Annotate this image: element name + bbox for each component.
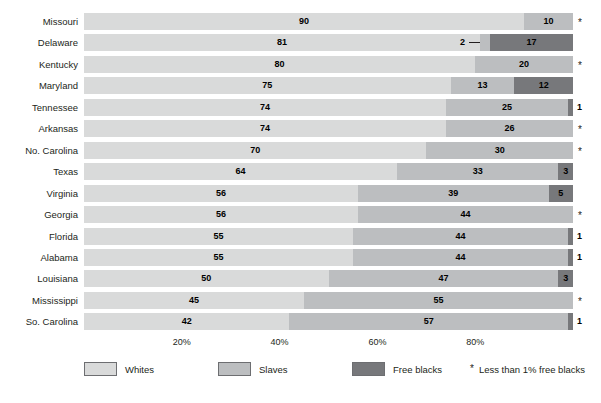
legend-swatch-slaves <box>218 362 251 376</box>
value-label-slaves: 20 <box>475 56 573 73</box>
row-label-delaware: Delaware <box>0 34 78 51</box>
value-label-free-blacks: 1 <box>577 249 582 266</box>
row-label-no-carolina: No. Carolina <box>0 142 78 159</box>
value-label-whites: 74 <box>84 99 446 116</box>
stacked-bar: 5644 <box>84 206 573 223</box>
x-tick-label: 60% <box>368 337 386 347</box>
chart-row: Florida15544 <box>0 228 601 245</box>
legend-note-text: Less than 1% free blacks <box>479 364 585 375</box>
row-label-texas: Texas <box>0 163 78 180</box>
value-label-whites: 81 <box>84 34 480 51</box>
chart-row: Arkansas7426* <box>0 120 601 137</box>
row-label-missouri: Missouri <box>0 13 78 30</box>
row-label-arkansas: Arkansas <box>0 120 78 137</box>
segment-slaves <box>480 34 490 51</box>
legend-item-slaves: Slaves <box>218 360 288 378</box>
stacked-bar: 81217 <box>84 34 573 51</box>
segment-free-blacks <box>568 228 573 245</box>
value-label-whites: 45 <box>84 292 304 309</box>
legend-label: Whites <box>125 364 154 375</box>
row-label-georgia: Georgia <box>0 206 78 223</box>
segment-free-blacks <box>568 313 573 330</box>
value-label-whites: 75 <box>84 77 451 94</box>
legend-item-whites: Whites <box>84 360 154 378</box>
value-label-free-blacks: 1 <box>577 99 582 116</box>
chart-row: Texas64333 <box>0 163 601 180</box>
value-label-slaves: 44 <box>353 249 568 266</box>
less-than-one-percent-marker: * <box>578 13 582 30</box>
value-label-whites: 64 <box>84 163 397 180</box>
row-label-florida: Florida <box>0 228 78 245</box>
value-label-whites: 56 <box>84 185 358 202</box>
value-label-slaves: 39 <box>358 185 549 202</box>
value-label-slaves: 10 <box>524 13 573 30</box>
less-than-one-percent-marker: * <box>578 206 582 223</box>
x-tick-label: 20% <box>173 337 191 347</box>
less-than-one-percent-marker: * <box>578 56 582 73</box>
chart-row: No. Carolina7030* <box>0 142 601 159</box>
value-label-slaves: 47 <box>329 270 559 287</box>
value-label-whites: 42 <box>84 313 289 330</box>
value-label-whites: 55 <box>84 228 353 245</box>
value-label-free-blacks: 1 <box>577 313 582 330</box>
x-axis: 20%40%60%80% <box>84 337 573 353</box>
chart-row: Missouri9010* <box>0 13 601 30</box>
less-than-one-percent-marker: * <box>578 142 582 159</box>
legend-item-free-blacks: Free blacks <box>352 360 442 378</box>
legend-note: *Less than 1% free blacks <box>470 360 585 378</box>
value-label-slaves: 13 <box>451 77 515 94</box>
plot-area: Missouri9010*Delaware81217Kentucky8020*M… <box>0 0 601 340</box>
value-label-slaves: 44 <box>358 206 573 223</box>
x-tick-label: 40% <box>271 337 289 347</box>
chart-row: Virginia56395 <box>0 185 601 202</box>
stacked-bar: 5544 <box>84 249 573 266</box>
value-label-whites: 70 <box>84 142 426 159</box>
less-than-one-percent-marker: * <box>578 292 582 309</box>
chart-row: So. Carolina14257 <box>0 313 601 330</box>
chart-legend: WhitesSlavesFree blacks*Less than 1% fre… <box>0 360 601 390</box>
chart-row: Delaware81217 <box>0 34 601 51</box>
value-label-whites: 90 <box>84 13 524 30</box>
chart-row: Mississippi4555* <box>0 292 601 309</box>
value-label-free-blacks: 3 <box>558 163 573 180</box>
stacked-bar: 4257 <box>84 313 573 330</box>
stacked-bar: 9010 <box>84 13 573 30</box>
legend-swatch-free-blacks <box>352 362 385 376</box>
value-label-whites: 80 <box>84 56 475 73</box>
value-label-slaves: 55 <box>304 292 573 309</box>
legend-label: Free blacks <box>393 364 442 375</box>
chart-row: Louisiana50473 <box>0 270 601 287</box>
stacked-bar: 7030 <box>84 142 573 159</box>
less-than-one-percent-marker: * <box>578 120 582 137</box>
legend-note-asterisk-icon: * <box>470 362 474 376</box>
stacked-bar: 64333 <box>84 163 573 180</box>
row-label-louisiana: Louisiana <box>0 270 78 287</box>
value-label-slaves: 2 <box>447 34 465 51</box>
row-label-mississippi: Mississippi <box>0 292 78 309</box>
legend-label: Slaves <box>259 364 288 375</box>
segment-free-blacks <box>568 99 573 116</box>
stacked-bar: 7425 <box>84 99 573 116</box>
row-label-so-carolina: So. Carolina <box>0 313 78 330</box>
stacked-bar: 50473 <box>84 270 573 287</box>
stacked-bar: 7426 <box>84 120 573 137</box>
segment-free-blacks <box>568 249 573 266</box>
chart-row: Kentucky8020* <box>0 56 601 73</box>
x-tick-label: 80% <box>466 337 484 347</box>
stacked-bar-chart: Missouri9010*Delaware81217Kentucky8020*M… <box>0 0 601 403</box>
value-label-slaves: 26 <box>446 120 573 137</box>
stacked-bar: 5544 <box>84 228 573 245</box>
value-label-whites: 50 <box>84 270 329 287</box>
legend-swatch-whites <box>84 362 117 376</box>
chart-row: Tennessee17425 <box>0 99 601 116</box>
stacked-bar: 56395 <box>84 185 573 202</box>
value-label-slaves: 44 <box>353 228 568 245</box>
row-label-kentucky: Kentucky <box>0 56 78 73</box>
value-label-free-blacks: 3 <box>558 270 573 287</box>
value-label-free-blacks: 17 <box>490 34 573 51</box>
row-label-virginia: Virginia <box>0 185 78 202</box>
stacked-bar: 4555 <box>84 292 573 309</box>
leader-line <box>469 42 480 43</box>
value-label-slaves: 30 <box>426 142 573 159</box>
value-label-slaves: 57 <box>289 313 568 330</box>
